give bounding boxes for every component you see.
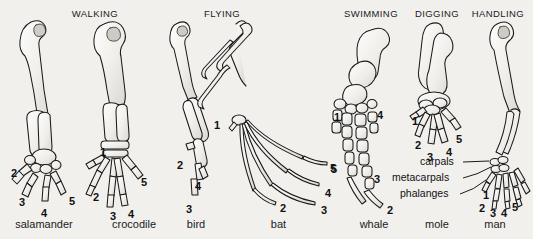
digit-label: 4 (195, 181, 201, 192)
digit-label: 5 (141, 177, 147, 188)
digit-label: 2 (415, 140, 421, 151)
heading-swimming: SWIMMING (331, 8, 411, 19)
species-label-whale: whale (348, 218, 400, 230)
limb-skeleton-artwork (0, 0, 533, 239)
digit-label: 2 (280, 203, 286, 214)
digit-label: 3 (110, 211, 116, 222)
digit-label: 4 (41, 208, 47, 219)
annotation-metacarpals: metacarpals (392, 172, 449, 183)
digit-label: 3 (321, 205, 327, 216)
crocodile-limb (86, 22, 143, 207)
digit-label: 3 (490, 208, 496, 219)
digit-label: 5 (330, 163, 336, 174)
digit-label: 2 (11, 168, 17, 179)
digit-label: 1 (483, 190, 489, 201)
digit-label: 3 (186, 204, 192, 215)
homologous-limbs-diagram: WALKING FLYING SWIMMING DIGGING HANDLING… (0, 0, 533, 239)
salamander-limb (12, 21, 66, 201)
digit-label: 1 (334, 112, 340, 123)
digit-label: 2 (177, 160, 183, 171)
digit-label: 1 (214, 120, 220, 131)
species-label-bird: bird (171, 218, 221, 230)
digit-label: 3 (19, 197, 25, 208)
species-label-mole: mole (414, 218, 460, 230)
species-label-bat: bat (256, 218, 301, 230)
digit-label: 2 (479, 203, 485, 214)
digit-label: 5 (512, 202, 518, 213)
digit-label: 1 (100, 147, 106, 158)
digit-label: 4 (128, 209, 134, 220)
digit-label: 2 (93, 192, 99, 203)
species-label-salamander: salamander (4, 218, 84, 230)
bat-wing-bones (198, 23, 327, 205)
digit-label: 4 (325, 188, 331, 199)
heading-handling: HANDLING (459, 8, 533, 19)
heading-walking: WALKING (55, 8, 135, 19)
digit-label: 3 (374, 174, 380, 185)
heading-flying: FLYING (187, 8, 257, 19)
digit-label: 1 (412, 116, 418, 127)
annotation-phalanges: phalanges (400, 188, 448, 199)
man-limb (482, 22, 530, 209)
digit-label: 2 (387, 205, 393, 216)
digit-label: 5 (456, 134, 462, 145)
digit-label: 5 (69, 196, 75, 207)
digit-label: 4 (377, 110, 383, 121)
annotation-carpals: carpals (420, 156, 454, 167)
species-label-man: man (474, 218, 516, 230)
digit-label: 4 (501, 208, 507, 219)
